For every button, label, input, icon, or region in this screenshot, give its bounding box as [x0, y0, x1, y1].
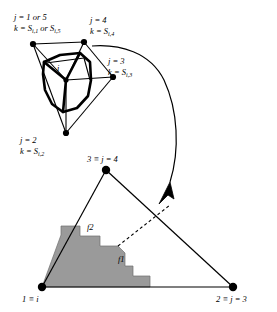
v1-k-prefix: k = S — [14, 23, 33, 33]
dashed-face-line — [118, 205, 170, 246]
control-volume-inner-ridge-1 — [44, 62, 66, 80]
triangle-node-3 — [102, 166, 110, 174]
triangle-node-1 — [38, 283, 46, 291]
connector-arrow — [92, 46, 176, 204]
label-vertex-v3: j = 3 k = Si,3 — [107, 56, 132, 78]
node-v1 — [30, 41, 36, 47]
svg-text:k = Si,3: k = Si,3 — [108, 67, 132, 78]
center-node-label: i — [57, 63, 60, 73]
triangle-node-2 — [229, 283, 237, 291]
label-vertex-v4: j = 4 k = Si,4 — [89, 15, 114, 37]
node-v4 — [81, 39, 87, 45]
figure-root: i j = 1 or 5 k = Si,1 or Si,5 j = 4 k = … — [0, 0, 277, 312]
control-volume-polygon — [43, 53, 91, 112]
svg-text:j = 3: j = 3 — [107, 56, 125, 66]
bottom-panel-group: 3 ≡ j = 4 1 ≡ i 2 ≡ j = 3 f2 f1 — [22, 154, 247, 304]
face-label-f2: f2 — [87, 222, 94, 232]
v4-sub: i,4 — [108, 31, 114, 37]
v1-sub-b: i,5 — [54, 28, 60, 34]
triangle-label-3: 3 ≡ j = 4 — [86, 154, 119, 164]
v3-sub: i,3 — [126, 72, 132, 78]
face-label-f1: f1 — [118, 254, 125, 264]
node-v2 — [63, 130, 69, 136]
svg-text:j = 1 or 5: j = 1 or 5 — [13, 12, 47, 22]
top-panel-group: i j = 1 or 5 k = Si,1 or Si,5 j = 4 k = … — [13, 12, 132, 157]
svg-text:k = Si,2: k = Si,2 — [20, 146, 44, 157]
v3-k-prefix: k = S — [108, 67, 127, 77]
label-vertex-v2: j = 2 k = Si,2 — [19, 135, 44, 157]
svg-text:j = 4: j = 4 — [89, 15, 107, 25]
figure-canvas: i j = 1 or 5 k = Si,1 or Si,5 j = 4 k = … — [0, 0, 277, 312]
svg-text:j = 2: j = 2 — [19, 135, 37, 145]
v2-k-prefix: k = S — [20, 146, 39, 156]
triangle-label-1: 1 ≡ i — [22, 294, 39, 304]
triangle-label-2: 2 ≡ j = 3 — [216, 294, 247, 304]
connector-arrow-head — [159, 182, 174, 204]
v1-mid: or S — [38, 23, 55, 33]
outer-edge-v2-v1 — [33, 44, 66, 133]
v4-k-prefix: k = S — [90, 26, 109, 36]
outer-edge-v1-v4 — [33, 42, 84, 44]
control-volume-inner-ridge-2 — [66, 53, 80, 80]
svg-text:k = Si,4: k = Si,4 — [90, 26, 114, 37]
v2-sub: i,2 — [38, 151, 44, 157]
label-vertex-v1: j = 1 or 5 k = Si,1 or Si,5 — [13, 12, 60, 34]
node-center-i — [63, 77, 68, 82]
svg-text:k = Si,1 or Si,5: k = Si,1 or Si,5 — [14, 23, 60, 34]
